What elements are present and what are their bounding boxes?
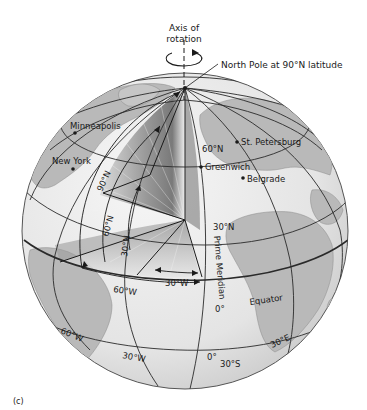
city-label-greenwich: Greenwich [205, 162, 250, 172]
city-label-st-petersburg: St. Petersburg [241, 137, 301, 147]
globe-diagram: Axis of rotation North Pole at 90°N lati… [0, 0, 367, 410]
city-label-new-york: New York [52, 156, 91, 166]
north-pole-dot [183, 86, 187, 90]
axis-label-line2: rotation [166, 34, 201, 44]
axis-label-line1: Axis of [169, 23, 200, 33]
city-label-belgrade: Belgrade [247, 174, 285, 184]
north-pole-label: North Pole at 90°N latitude [221, 60, 343, 70]
panel-label: (c) [13, 397, 24, 406]
latitude-label-30s: 30°S [220, 359, 240, 369]
angle-label-30w: 30°W [165, 278, 189, 288]
latitude-label-60n: 60°N [202, 144, 223, 154]
origin-label: 0° [215, 304, 225, 314]
city-label-minneapolis: Minneapolis [70, 121, 121, 131]
meridian-label-0: 0° [207, 352, 217, 362]
latitude-label-30n: 30°N [213, 222, 234, 232]
